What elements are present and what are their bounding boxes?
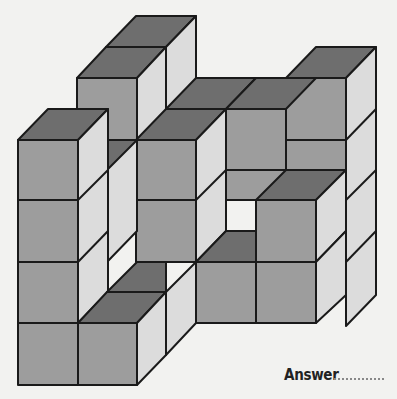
cube-face-side [78, 109, 108, 323]
cube-face-front [196, 262, 256, 323]
cube-face-top [107, 262, 166, 292]
cube-face-side [166, 262, 196, 355]
answer-label: Answer [284, 366, 339, 384]
answer-blank[interactable] [334, 372, 384, 380]
cube-face-front [256, 262, 316, 323]
cube-face-front [256, 200, 316, 262]
cube-puzzle-figure [0, 0, 397, 399]
cube-face-side [346, 47, 376, 326]
cube-face-front [78, 323, 137, 385]
